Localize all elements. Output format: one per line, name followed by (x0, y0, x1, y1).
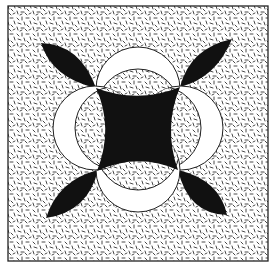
geometric-pattern-artwork (0, 0, 275, 270)
center-black-star (96, 87, 180, 171)
